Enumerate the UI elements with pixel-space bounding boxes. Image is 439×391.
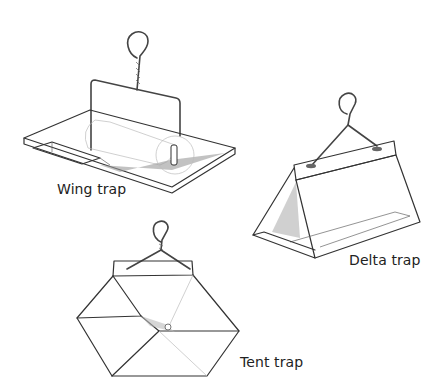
tent-trap-drawing xyxy=(77,221,239,376)
wing-trap-label: Wing trap xyxy=(57,181,126,197)
hook-icon xyxy=(339,93,356,125)
tent-trap-label: Tent trap xyxy=(240,354,303,370)
hook-icon xyxy=(153,221,167,250)
hook-icon xyxy=(128,32,148,90)
wing-trap-drawing xyxy=(24,32,235,193)
delta-trap-drawing xyxy=(253,93,420,258)
delta-trap-label: Delta trap xyxy=(349,252,421,268)
